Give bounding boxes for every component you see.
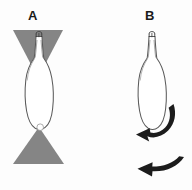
figure-graphics xyxy=(0,0,192,190)
figure-canvas: A B xyxy=(0,0,192,190)
translation-arrow xyxy=(138,156,185,176)
flask-cell-outline xyxy=(138,37,166,130)
panel-b-group xyxy=(136,32,184,177)
basal-white-dot xyxy=(37,124,44,131)
panel-label-a: A xyxy=(28,9,37,22)
panel-label-b: B xyxy=(145,9,154,22)
bottom-gray-cone xyxy=(13,127,64,164)
panel-a-group xyxy=(13,30,64,164)
